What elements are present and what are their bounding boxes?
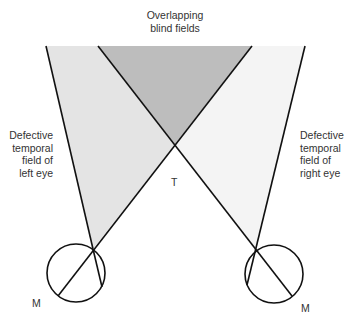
title-line-1: Overlapping [100,9,250,22]
right-label-line: temporal [300,142,350,155]
left-label-line: temporal [0,142,53,155]
left-macula-label: M [32,297,41,310]
left-label-line: left eye [0,167,53,180]
crossing-point-label: T [171,176,177,189]
right-label-line: right eye [300,167,350,180]
right-label-line: field of [300,154,350,167]
title-line-2: blind fields [100,22,250,35]
right-eye-field-label: Defective temporal field of right eye [300,129,350,179]
left-eye-field-label: Defective temporal field of left eye [0,129,53,179]
right-label-line: Defective [300,129,350,142]
left-label-line: field of [0,154,53,167]
right-macula-label: M [301,302,310,315]
left-label-line: Defective [0,129,53,142]
overlapping-blind-fields-label: Overlapping blind fields [100,9,250,34]
